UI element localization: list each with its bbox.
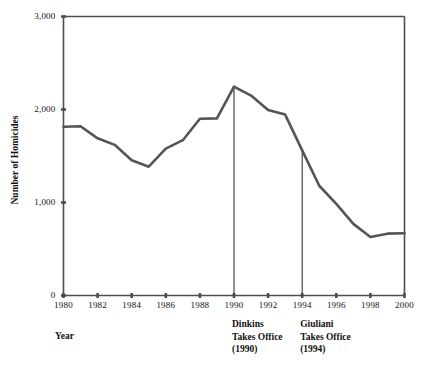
annotation-text-row: Dinkins bbox=[232, 318, 283, 331]
annotation-text-row: Takes Office bbox=[232, 331, 283, 344]
x-tick-label: 2000 bbox=[385, 300, 424, 310]
y-tick-label: 1,000 bbox=[2, 197, 56, 207]
chart-figure: Number of Homicides Year 01,0002,0003,00… bbox=[0, 0, 424, 373]
annotation-label-1994: GiulianiTakes Office(1994) bbox=[300, 318, 351, 356]
chart-canvas bbox=[0, 0, 424, 373]
annotation-label-1990: DinkinsTakes Office(1990) bbox=[232, 318, 283, 356]
annotation-text-row: Takes Office bbox=[300, 331, 351, 344]
annotation-vertical-lines bbox=[234, 87, 302, 296]
annotation-text-row: (1990) bbox=[232, 343, 283, 356]
axis-ticks bbox=[61, 17, 405, 299]
annotation-text-row: Giuliani bbox=[300, 318, 351, 331]
y-tick-label: 0 bbox=[2, 290, 56, 300]
y-tick-label: 3,000 bbox=[2, 11, 56, 21]
annotation-text-row: (1994) bbox=[300, 343, 351, 356]
x-axis-title: Year bbox=[55, 331, 74, 341]
y-tick-label: 2,000 bbox=[2, 104, 56, 114]
